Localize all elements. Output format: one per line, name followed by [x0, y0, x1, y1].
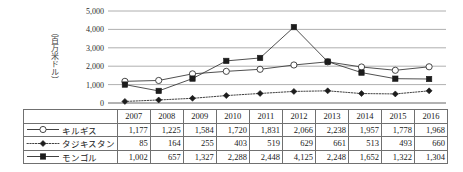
table-cell-value: 1,322 — [381, 150, 414, 164]
legend-sample-wrap — [26, 125, 60, 134]
table-cell-value: 2,288 — [216, 150, 249, 164]
y-axis-tick-label: 4,000 — [86, 25, 104, 34]
table-cell-value: 661 — [315, 137, 348, 151]
legend-series-name: タジキスタン — [62, 137, 115, 149]
data-point-marker — [393, 76, 398, 81]
data-point-marker — [358, 64, 364, 70]
table-cell-value: 629 — [282, 137, 315, 151]
table-row: キルギス1,1771,2251,5841,7201,8312,0662,2381… — [24, 123, 448, 137]
table-corner-cell — [24, 110, 118, 124]
table-cell-value: 1,968 — [414, 123, 447, 137]
y-axis-tick-label: 3,000 — [86, 44, 104, 53]
data-point-marker — [426, 88, 432, 94]
legend-sample-wrap — [26, 139, 60, 148]
data-point-marker — [224, 58, 229, 63]
table-column-header: 2009 — [183, 110, 216, 124]
legend-point-marker — [40, 154, 45, 159]
line-chart: 01,0002,0003,0004,0005,000 — [0, 0, 463, 112]
table-row: タジキスタン85164255403519629661513493660 — [24, 137, 448, 151]
y-axis-tick-label: 5,000 — [86, 7, 104, 16]
y-axis-tick-label: 1,000 — [86, 81, 104, 90]
data-point-marker — [257, 66, 263, 72]
legend-row-label-cell: モンゴル — [24, 150, 118, 164]
table-column-header: 2010 — [216, 110, 249, 124]
data-point-marker — [190, 76, 195, 81]
legend-entry: モンゴル — [26, 151, 115, 163]
table-cell-value: 1,304 — [414, 150, 447, 164]
table-column-header: 2016 — [414, 110, 447, 124]
data-point-marker — [223, 68, 229, 74]
chart-and-table-figure: （百万米ドル） 01,0002,0003,0004,0005,000 20072… — [0, 0, 463, 172]
data-point-marker — [156, 88, 161, 93]
table-cell-value: 164 — [150, 137, 183, 151]
legend-series-name: キルギス — [62, 124, 97, 136]
data-point-marker — [257, 55, 262, 60]
table-cell-value: 1,584 — [183, 123, 216, 137]
data-point-marker — [426, 64, 432, 70]
table-column-header: 2014 — [348, 110, 381, 124]
table-cell-value: 1,327 — [183, 150, 216, 164]
table-cell-value: 2,248 — [315, 150, 348, 164]
table-cell-value: 493 — [381, 137, 414, 151]
table-head: 2007200820092010201120122013201420152016 — [24, 110, 448, 124]
table-cell-value: 255 — [183, 137, 216, 151]
legend-point-marker — [40, 127, 46, 133]
table-cell-value: 657 — [150, 150, 183, 164]
table-header-row: 2007200820092010201120122013201420152016 — [24, 110, 448, 124]
table-cell-value: 85 — [117, 137, 150, 151]
data-point-marker — [223, 93, 229, 99]
data-point-marker — [359, 70, 364, 75]
table-cell-value: 519 — [249, 137, 282, 151]
table-cell-value: 2,066 — [282, 123, 315, 137]
table-column-header: 2011 — [249, 110, 282, 124]
data-point-marker — [426, 76, 431, 81]
table-cell-value: 1,177 — [117, 123, 150, 137]
chart-canvas: 01,0002,0003,0004,0005,000 — [0, 0, 463, 112]
table-cell-value: 403 — [216, 137, 249, 151]
table-cell-value: 1,002 — [117, 150, 150, 164]
series-line-2 — [125, 27, 429, 91]
table-cell-value: 1,225 — [150, 123, 183, 137]
series-line-1 — [125, 91, 429, 102]
table-cell-value: 1,831 — [249, 123, 282, 137]
table-column-header: 2008 — [150, 110, 183, 124]
data-point-marker — [122, 98, 128, 104]
legend-sample-wrap — [26, 152, 60, 161]
data-point-marker — [392, 91, 398, 97]
data-point-marker — [190, 95, 196, 101]
legend-entry: タジキスタン — [26, 137, 115, 149]
data-point-marker — [257, 90, 263, 96]
data-point-marker — [291, 88, 297, 94]
data-point-marker — [156, 97, 162, 103]
legend-row-label-cell: タジキスタン — [24, 137, 118, 151]
y-axis-tick-label: 2,000 — [86, 62, 104, 71]
table-cell-value: 2,448 — [249, 150, 282, 164]
table-column-header: 2015 — [381, 110, 414, 124]
legend-point-marker — [40, 140, 46, 146]
data-point-marker — [392, 67, 398, 73]
data-point-marker — [291, 24, 296, 29]
table-cell-value: 2,238 — [315, 123, 348, 137]
table-cell-value: 1,957 — [348, 123, 381, 137]
data-point-marker — [122, 82, 127, 87]
table-cell-value: 1,652 — [348, 150, 381, 164]
table-cell-value: 1,720 — [216, 123, 249, 137]
table-column-header: 2012 — [282, 110, 315, 124]
data-point-marker — [156, 77, 162, 83]
legend-row-label-cell: キルギス — [24, 123, 118, 137]
legend-series-name: モンゴル — [62, 151, 97, 163]
y-axis-tick-labels-group: 01,0002,0003,0004,0005,000 — [86, 7, 104, 108]
table-cell-value: 4,125 — [282, 150, 315, 164]
y-axis-tick-label: 0 — [100, 99, 104, 108]
legend-marker-icon — [26, 125, 60, 134]
table-cell-value: 513 — [348, 137, 381, 151]
legend-marker-icon — [26, 139, 60, 148]
data-point-marker — [291, 62, 297, 68]
legend-entry: キルギス — [26, 124, 115, 136]
table-cell-value: 1,778 — [381, 123, 414, 137]
table-body: キルギス1,1771,2251,5841,7201,8312,0662,2381… — [24, 123, 448, 164]
series-line-0 — [125, 62, 429, 82]
legend-marker-icon — [26, 152, 60, 161]
table-row: モンゴル1,0026571,3272,2882,4484,1252,2481,6… — [24, 150, 448, 164]
table-column-header: 2007 — [117, 110, 150, 124]
